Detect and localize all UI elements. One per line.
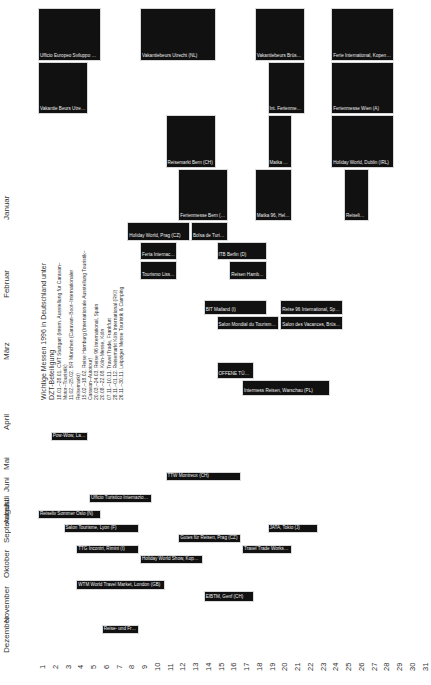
event-bar: Ferienmesse Bern (CH)	[178, 169, 228, 222]
day-label: 16	[229, 660, 241, 674]
event-label: WTM World Travel Market, London (GB)	[77, 581, 163, 588]
event-label: Reisen Hamburg (D)	[230, 271, 265, 278]
event-bar: Matka 96, Helsinki (SF)	[268, 115, 293, 168]
event-label: Reisemarkt Bern (CH)	[167, 159, 215, 166]
event-label: Ferienmesse Bern (CH)	[179, 212, 227, 219]
event-bar: Reiseliv Sommer Oslo (N)	[38, 510, 101, 519]
month-label-april: April	[2, 362, 28, 430]
day-label: 28	[382, 660, 394, 674]
event-label: Intermess Reisen, Warschau (PL)	[243, 387, 329, 394]
event-label: Holiday World, Prag (CZ)	[128, 232, 189, 239]
event-bar: Travel Trade Workshop, Montreux (CH)	[242, 545, 292, 554]
info-box: Wichtige Messen 1996 in Deutschland unte…	[40, 250, 124, 400]
month-label-märz: März	[2, 300, 28, 360]
day-label: 17	[242, 660, 254, 674]
event-label: Bolsa de Turismo, Lissabon (P)	[192, 232, 227, 239]
event-label: Ferie International, Kopenhagen (DK)	[332, 52, 393, 59]
event-bar: Reisemarkt Bern (CH)	[166, 115, 216, 168]
event-label: Ferienmesse Wien (A)	[332, 105, 393, 112]
day-label: 9	[140, 660, 152, 674]
day-label: 24	[331, 660, 343, 674]
day-label: 15	[217, 660, 229, 674]
event-bar: Ferie International, Kopenhagen (DK)	[331, 8, 394, 61]
day-label: 11	[166, 660, 178, 674]
day-label: 19	[268, 660, 280, 674]
day-label: 2	[51, 660, 63, 674]
event-label: Travel Trade Workshop, Montreux (CH)	[243, 545, 291, 552]
event-label: Gutes für Reisen, Prag (CZ)	[179, 534, 240, 541]
day-label: 6	[102, 660, 114, 674]
event-label: Matka 96, Helsinki (SF)	[256, 212, 291, 219]
event-label: Reiseliv Oslo (N)	[345, 212, 368, 219]
event-bar: Holiday World, Prag (CZ)	[127, 222, 190, 241]
event-bar: Feria Internacional de Turismo, Madrid (…	[140, 242, 177, 261]
day-label: 5	[89, 660, 101, 674]
event-label: Holiday World Show, Kopenhagen (DK)	[141, 555, 202, 562]
day-axis: 1234567891011121314151617181920212223242…	[0, 660, 431, 674]
month-label-mai: Mai	[2, 432, 28, 470]
day-label: 13	[191, 660, 203, 674]
event-bar: Pow-Wow, Las Vegas (USA)	[51, 432, 88, 441]
day-label: 31	[421, 660, 431, 674]
event-label: Ufficio Turistico Internazionale, Rimini…	[90, 494, 151, 501]
event-label: Ufficio Europeo Sviluppo Enti Turismo, M…	[39, 52, 100, 59]
event-bar: ITB Berlin (D)	[217, 242, 267, 261]
event-bar: Vakantiebeurs Utrecht (NL)	[140, 8, 216, 61]
day-label: 7	[115, 660, 127, 674]
event-bar: Vakantie Beurs Utrecht (NL)	[38, 62, 88, 115]
event-bar: Holiday World Show, Kopenhagen (DK)	[140, 555, 203, 564]
month-label-september: September	[2, 524, 28, 543]
event-label: Vakantiebeurs Brüssel (B)	[256, 52, 304, 59]
event-bar: Salon Tourisme, Lyon (F)	[64, 524, 140, 533]
event-label: ITB Berlin (D)	[218, 251, 266, 258]
event-bar: EIBTM, Genf (CH)	[204, 591, 254, 601]
event-bar: Salon Mondial du Tourisme, Paris (F)	[217, 316, 280, 331]
info-title: Wichtige Messen 1996 in Deutschland unte…	[40, 250, 56, 400]
event-bar: Reise- und Freizeitmesse, Essen (D)	[102, 625, 139, 634]
event-bar: Matka 96, Helsinki (SF)	[255, 169, 292, 222]
day-label: 27	[370, 660, 382, 674]
day-label: 22	[306, 660, 318, 674]
event-label: EIBTM, Genf (CH)	[205, 593, 253, 600]
event-label: Salon Mondial du Tourisme, Paris (F)	[218, 321, 279, 328]
event-label: TTG Incontri, Rimini (I)	[77, 545, 138, 552]
event-label: BIT Mailand (I)	[205, 306, 266, 313]
event-bar: Reiseliv Oslo (N)	[344, 169, 369, 222]
event-bar: Ufficio Turistico Internazionale, Rimini…	[89, 494, 152, 503]
event-label: Vakantiebeurs Utrecht (NL)	[141, 52, 215, 59]
event-label: JATA, Tokio (J)	[269, 524, 317, 531]
event-bar: Intermess Reisen, Warschau (PL)	[242, 380, 330, 397]
day-label: 26	[357, 660, 369, 674]
event-label: TTW Montreux (CH)	[167, 472, 241, 479]
month-label-januar: Januar	[2, 8, 28, 220]
event-bar: Holiday World, Dublin (IRL)	[331, 115, 394, 168]
event-bar: Bolsa de Turismo, Lissabon (P)	[191, 222, 228, 241]
day-label: 21	[293, 660, 305, 674]
event-label: Int. Ferienmesse Basel (CH)	[269, 105, 304, 112]
event-label: Pow-Wow, Las Vegas (USA)	[52, 432, 87, 439]
day-label: 20	[280, 660, 292, 674]
month-label-dezember: Dezember	[2, 625, 28, 653]
day-label: 4	[76, 660, 88, 674]
day-label: 8	[127, 660, 139, 674]
info-row: 18.01.–28.01. CMT Stuttgart (Intern. Aus…	[56, 250, 68, 400]
info-row: 11.02.–25.02. BR München (Caravan–Boot–I…	[68, 250, 80, 400]
day-label: 1	[38, 660, 50, 674]
event-label: Reise- und Freizeitmesse, Essen (D)	[103, 625, 138, 632]
event-bar: Reisen Hamburg (D)	[229, 261, 266, 280]
info-row: 15.02.–18.02. Reise Hamburg (Internation…	[81, 250, 93, 400]
event-bar: Int. Ferienmesse Basel (CH)	[268, 62, 305, 115]
event-bar: Ferienmesse Wien (A)	[331, 62, 394, 115]
day-label: 25	[344, 660, 356, 674]
event-label: Reise 96 International, Spain	[281, 306, 342, 313]
event-bar: Gutes für Reisen, Prag (CZ)	[178, 534, 241, 543]
day-label: 30	[408, 660, 420, 674]
event-bar: TTW Montreux (CH)	[166, 472, 242, 481]
month-label-februar: Februar	[2, 222, 28, 298]
event-bar: OFFENE TÜR, Zürich (CH)	[217, 362, 254, 379]
event-bar: BIT Mailand (I)	[204, 300, 267, 315]
event-bar: Vakantiebeurs Brüssel (B)	[255, 8, 305, 61]
event-label: Salon Tourisme, Lyon (F)	[65, 524, 139, 531]
day-label: 18	[255, 660, 267, 674]
month-label-juni: Juni	[2, 472, 28, 492]
